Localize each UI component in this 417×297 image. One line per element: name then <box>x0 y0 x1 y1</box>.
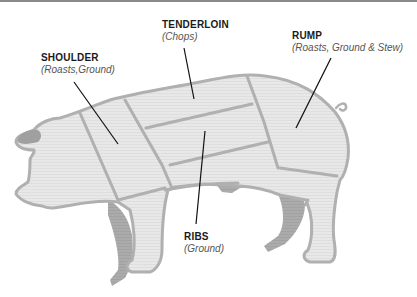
snout-icon <box>18 130 41 144</box>
label-shoulder: SHOULDER (Roasts,Ground) <box>41 52 115 76</box>
shoulder-uses: (Roasts,Ground) <box>41 64 115 76</box>
tenderloin-uses: (Chops) <box>162 31 229 43</box>
label-rump: RUMP (Roasts, Ground & Stew) <box>292 30 403 54</box>
tenderloin-name: TENDERLOIN <box>162 19 229 31</box>
shoulder-name: SHOULDER <box>41 52 115 64</box>
ribs-name: RIBS <box>184 231 224 243</box>
rump-uses: (Roasts, Ground & Stew) <box>292 42 403 54</box>
pig-body <box>16 75 348 272</box>
rump-name: RUMP <box>292 30 403 42</box>
label-tenderloin: TENDERLOIN (Chops) <box>162 19 229 43</box>
label-ribs: RIBS (Ground) <box>184 231 224 255</box>
ribs-uses: (Ground) <box>184 243 224 255</box>
tail-icon <box>336 104 346 111</box>
